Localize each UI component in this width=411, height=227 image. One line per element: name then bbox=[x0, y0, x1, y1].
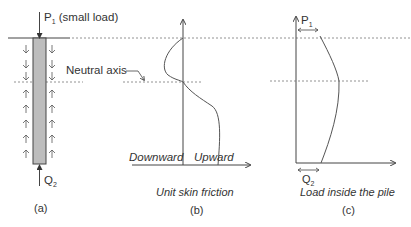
p1-dimension-arrow bbox=[298, 28, 318, 32]
pile bbox=[33, 38, 46, 164]
neutral-axis-label: Neutral axis bbox=[66, 65, 127, 77]
upward-label: Upward bbox=[194, 152, 234, 164]
load-inside-pile-title: Load inside the pile bbox=[300, 187, 395, 198]
unit-skin-friction-title: Unit skin friction bbox=[156, 187, 234, 198]
neutral-axis-leader bbox=[126, 71, 144, 80]
load-label-p1: P1 (small load) bbox=[44, 12, 118, 25]
caption-b: (b) bbox=[190, 205, 203, 216]
caption-c: (c) bbox=[342, 205, 355, 216]
tip-label-q2: Q2 bbox=[44, 175, 57, 188]
q2-dimension-arrow bbox=[298, 168, 319, 172]
panel-b bbox=[123, 20, 250, 165]
load-distribution-curve bbox=[320, 36, 339, 163]
top-load-label-p1: P1 bbox=[301, 15, 313, 28]
skin-friction-curve bbox=[164, 38, 219, 165]
panel-c bbox=[270, 17, 395, 172]
downward-label: Downward bbox=[129, 152, 183, 164]
caption-a: (a) bbox=[34, 203, 47, 214]
